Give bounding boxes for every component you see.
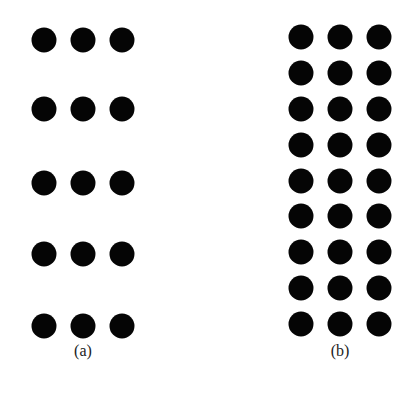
dot	[289, 204, 314, 229]
dot	[289, 61, 314, 86]
dot	[328, 169, 353, 194]
dot	[328, 276, 353, 301]
dot	[328, 61, 353, 86]
dot	[289, 169, 314, 194]
dot	[328, 204, 353, 229]
dot	[367, 133, 392, 158]
dot	[367, 204, 392, 229]
caption-b: (b)	[331, 342, 350, 360]
dot	[367, 97, 392, 122]
dot	[289, 25, 314, 50]
caption-a: (a)	[74, 342, 92, 360]
dot	[289, 97, 314, 122]
dot	[367, 169, 392, 194]
dot	[289, 312, 314, 337]
dot	[289, 276, 314, 301]
dot	[289, 133, 314, 158]
dot	[328, 240, 353, 265]
dot	[367, 240, 392, 265]
dot	[367, 61, 392, 86]
dot	[367, 312, 392, 337]
dot	[328, 25, 353, 50]
dot	[328, 97, 353, 122]
dot	[367, 276, 392, 301]
dot-grid-b	[0, 0, 419, 400]
dot	[328, 312, 353, 337]
dot	[367, 25, 392, 50]
dot	[328, 133, 353, 158]
dot	[289, 240, 314, 265]
